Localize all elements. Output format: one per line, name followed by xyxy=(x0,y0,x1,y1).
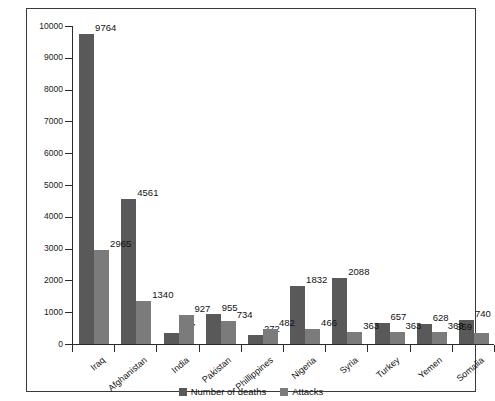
legend-label: Attacks xyxy=(292,386,323,397)
y-axis-tick-label: 6000 xyxy=(27,149,63,158)
y-axis-tick-label-wrap: 9000 xyxy=(27,53,63,62)
y-axis-tick xyxy=(65,312,72,313)
y-axis-tick-label-wrap: 0 xyxy=(27,340,63,349)
x-axis-category-text: Syria xyxy=(338,355,360,376)
bar-value-label: 657 xyxy=(391,312,407,322)
y-axis-tick-label-wrap: 3000 xyxy=(27,244,63,253)
x-axis-tick xyxy=(367,345,368,352)
y-axis-tick xyxy=(65,280,72,281)
bar xyxy=(248,335,263,344)
x-axis-tick xyxy=(199,345,200,352)
bar-value-label: 1832 xyxy=(306,275,327,285)
bar xyxy=(474,333,489,344)
y-axis-tick-label-wrap: 10000 xyxy=(27,22,63,31)
x-axis-category-text: Somalia xyxy=(455,355,486,384)
y-axis-tick-label: 5000 xyxy=(27,181,63,190)
y-axis-tick-label: 10000 xyxy=(27,22,63,31)
bar-value-label: 359 xyxy=(456,322,472,332)
bar xyxy=(164,333,179,344)
y-axis-tick-label-wrap: 1000 xyxy=(27,308,63,317)
legend-label: Number of deaths xyxy=(191,386,267,397)
y-axis-tick-label: 0 xyxy=(27,340,63,349)
y-axis-tick-label: 8000 xyxy=(27,85,63,94)
x-axis-category-text: Turkey xyxy=(375,355,402,380)
x-axis-category-text: India xyxy=(170,355,191,375)
bar xyxy=(79,34,94,344)
y-axis-tick xyxy=(65,90,72,91)
y-axis-tick xyxy=(65,249,72,250)
x-axis-tick xyxy=(410,345,411,352)
bar xyxy=(390,332,405,344)
x-axis-tick xyxy=(452,345,453,352)
y-axis-tick-label-wrap: 6000 xyxy=(27,149,63,158)
y-axis-tick-label: 1000 xyxy=(27,308,63,317)
bar-value-label: 628 xyxy=(433,313,449,323)
y-axis-tick-label-wrap: 5000 xyxy=(27,181,63,190)
bar-value-label: 927 xyxy=(195,304,211,314)
bar xyxy=(121,199,136,344)
x-axis-tick xyxy=(241,345,242,352)
bar xyxy=(179,315,194,344)
legend-swatch-icon xyxy=(179,388,187,396)
chart-legend: Number of deathsAttacks xyxy=(27,386,475,397)
x-axis-tick xyxy=(325,345,326,352)
x-axis-tick xyxy=(72,345,73,352)
legend-swatch-icon xyxy=(280,388,288,396)
x-axis-category-text: Pakistan xyxy=(200,355,233,385)
y-axis-tick xyxy=(65,58,72,59)
x-axis-category-text: Iraq xyxy=(88,355,106,373)
y-axis-tick-label: 9000 xyxy=(27,53,63,62)
bar xyxy=(347,332,362,344)
y-axis-tick-label: 4000 xyxy=(27,212,63,221)
bar xyxy=(290,286,305,344)
legend-item[interactable]: Number of deaths xyxy=(179,386,267,397)
x-axis-category-text: Yemen xyxy=(416,355,444,380)
x-axis-tick xyxy=(156,345,157,352)
y-axis-tick-label-wrap: 8000 xyxy=(27,85,63,94)
x-axis-tick xyxy=(114,345,115,352)
y-axis-tick xyxy=(65,344,72,345)
bar-value-label: 363 xyxy=(406,321,422,331)
bar-value-label: 482 xyxy=(279,318,295,328)
y-axis-tick-label: 2000 xyxy=(27,276,63,285)
bar xyxy=(221,321,236,344)
y-axis-tick-label: 3000 xyxy=(27,244,63,253)
bar-value-label: 1340 xyxy=(152,290,173,300)
y-axis-tick xyxy=(65,185,72,186)
bar xyxy=(136,301,151,344)
bar-value-label: 4561 xyxy=(137,188,158,198)
y-axis-tick xyxy=(65,26,72,27)
bar xyxy=(332,278,347,344)
y-axis-tick xyxy=(65,153,72,154)
bar-value-label: 466 xyxy=(321,318,337,328)
bar xyxy=(305,329,320,344)
bar-value-label: 2088 xyxy=(348,267,369,277)
legend-item[interactable]: Attacks xyxy=(280,386,323,397)
bars-layer: 9764456133795527218322088657628740296513… xyxy=(72,26,494,344)
bar xyxy=(94,250,109,344)
bar-value-label: 363 xyxy=(363,321,379,331)
y-axis-tick-label-wrap: 2000 xyxy=(27,276,63,285)
bar xyxy=(263,329,278,344)
chart-frame: 0100020003000400050006000700080009000100… xyxy=(26,8,476,392)
y-axis-tick xyxy=(65,121,72,122)
bar-value-label: 9764 xyxy=(95,23,116,33)
bar-value-label: 740 xyxy=(475,309,491,319)
x-axis-category-text: Nigeria xyxy=(289,355,317,381)
y-axis-tick-label: 7000 xyxy=(27,117,63,126)
bar-value-label: 734 xyxy=(237,310,253,320)
y-axis-tick-label-wrap: 4000 xyxy=(27,212,63,221)
x-axis-tick xyxy=(283,345,284,352)
bar xyxy=(432,332,447,344)
y-axis-tick xyxy=(65,217,72,218)
bar xyxy=(206,314,221,344)
bar-value-label: 955 xyxy=(222,303,238,313)
bar-value-label: 2965 xyxy=(110,239,131,249)
y-axis-tick-label-wrap: 7000 xyxy=(27,117,63,126)
